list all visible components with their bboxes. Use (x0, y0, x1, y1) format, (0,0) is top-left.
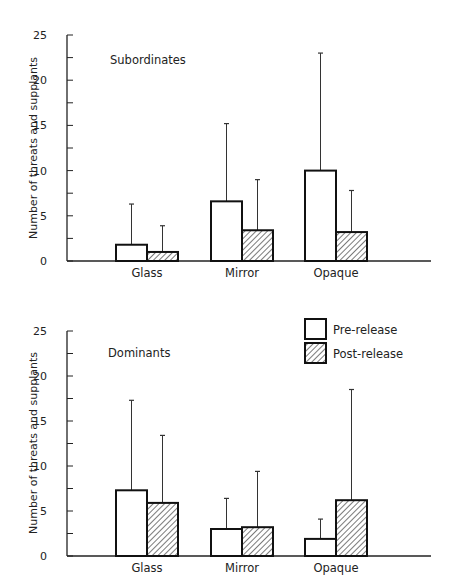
figure: 0510152025Number of threats and supplant… (0, 0, 454, 577)
bar-glass-post-release (147, 252, 178, 261)
bar-mirror-pre-release (211, 201, 242, 261)
x-category-label: Glass (131, 561, 162, 575)
bar-mirror-pre-release (211, 529, 242, 556)
y-tick-label: 0 (40, 255, 47, 268)
legend-label-pre-release: Pre-release (333, 323, 397, 337)
bar-glass-pre-release (116, 490, 147, 556)
bar-glass-pre-release (116, 245, 147, 261)
bar-mirror-post-release (242, 527, 273, 556)
dominants-chart: 0510152025Number of threats and supplant… (27, 325, 431, 575)
legend-label-post-release: Post-release (333, 347, 403, 361)
y-tick-label: 5 (40, 505, 47, 518)
bar-opaque-pre-release (305, 539, 336, 556)
y-tick-label: 0 (40, 550, 47, 563)
x-category-label: Mirror (225, 561, 259, 575)
subordinates-chart: 0510152025Number of threats and supplant… (27, 29, 431, 280)
bar-glass-post-release (147, 503, 178, 556)
legend: Pre-release Post-release (305, 319, 403, 363)
y-axis-label: Number of threats and supplants (27, 352, 40, 534)
panel-title: Subordinates (110, 53, 186, 67)
x-category-label: Glass (131, 266, 162, 280)
x-category-label: Opaque (313, 266, 358, 280)
panel-title: Dominants (108, 346, 170, 360)
legend-swatch-post-release (305, 343, 326, 363)
bar-opaque-post-release (336, 500, 367, 556)
y-tick-label: 5 (40, 210, 47, 223)
x-category-label: Opaque (313, 561, 358, 575)
y-tick-label: 25 (33, 325, 47, 338)
legend-swatch-pre-release (305, 319, 326, 339)
bar-mirror-post-release (242, 230, 273, 261)
bar-opaque-pre-release (305, 171, 336, 261)
x-category-label: Mirror (225, 266, 259, 280)
y-tick-label: 25 (33, 29, 47, 42)
bar-opaque-post-release (336, 232, 367, 261)
y-axis-label: Number of threats and supplants (27, 57, 40, 239)
